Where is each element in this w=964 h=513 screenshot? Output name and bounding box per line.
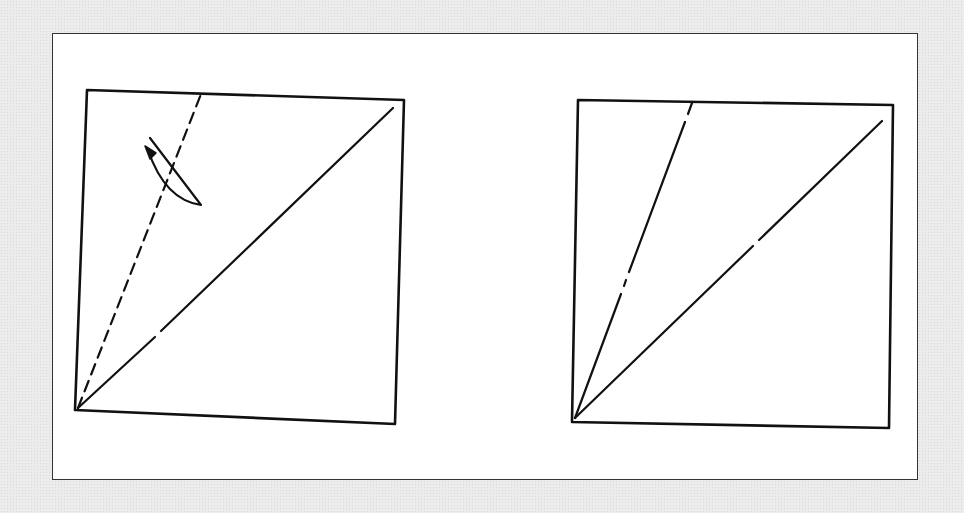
- left-diagonal: [161, 108, 393, 331]
- fold-arrow-icon: [148, 138, 201, 205]
- left-fold-line-dashed: [78, 94, 201, 408]
- arrowhead-icon: [145, 146, 156, 159]
- right-crease-line: [624, 280, 626, 286]
- folding-diagram: [0, 0, 964, 513]
- right-crease-line: [575, 294, 621, 418]
- right-diagonal: [575, 246, 753, 418]
- right-square: [572, 100, 893, 428]
- left-diagonal: [78, 337, 155, 408]
- left-panel: [75, 90, 404, 424]
- right-panel: [572, 100, 893, 428]
- right-crease-line: [629, 122, 685, 272]
- right-crease-line: [688, 103, 692, 114]
- right-diagonal: [759, 121, 882, 240]
